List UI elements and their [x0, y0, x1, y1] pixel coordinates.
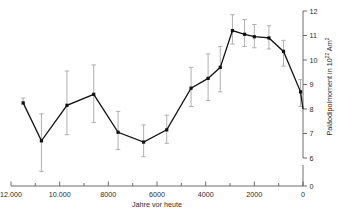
y-tick-label: 9: [310, 80, 314, 89]
data-point: [22, 101, 25, 104]
y-tick-label: 12: [310, 7, 318, 16]
data-point: [267, 36, 270, 39]
error-bars: [21, 15, 303, 172]
data-point: [65, 104, 68, 107]
data-point: [299, 90, 302, 93]
data-point: [116, 131, 119, 134]
data-point: [165, 128, 168, 131]
data-markers: [22, 29, 303, 144]
data-point: [40, 139, 43, 142]
chart-svg: 12.00010.00080006000400020000Jahre vor h…: [0, 0, 338, 215]
x-tick-label: 0: [301, 190, 305, 199]
x-tick-label: 6000: [149, 190, 165, 199]
data-point: [207, 77, 210, 80]
data-line: [23, 31, 303, 142]
y-tick-label: 7: [310, 129, 314, 138]
x-axis-title: Jahre vor heute: [132, 200, 182, 209]
y-tick-label: 10: [310, 56, 318, 65]
y-tick-label: 0: [310, 182, 314, 191]
data-point: [142, 140, 145, 143]
data-point: [231, 29, 234, 32]
x-tick-label: 12.000: [0, 190, 22, 199]
x-tick-label: 8000: [100, 190, 116, 199]
x-tick-label: 4000: [198, 190, 214, 199]
data-point: [92, 93, 95, 96]
paleointensity-chart: 12.00010.00080006000400020000Jahre vor h…: [0, 0, 338, 215]
data-point: [219, 66, 222, 69]
x-tick-label: 10.000: [49, 190, 71, 199]
data-point: [282, 50, 285, 53]
data-point: [253, 35, 256, 38]
y-tick-label: 11: [310, 31, 317, 40]
data-point: [243, 33, 246, 36]
x-tick-label: 2000: [246, 190, 262, 199]
y-tick-label: 6: [310, 154, 314, 163]
data-point: [189, 87, 192, 90]
y-axis-title: Paläodipolmoment in 1022 Am2: [324, 37, 334, 135]
y-tick-label: 8: [310, 105, 314, 114]
